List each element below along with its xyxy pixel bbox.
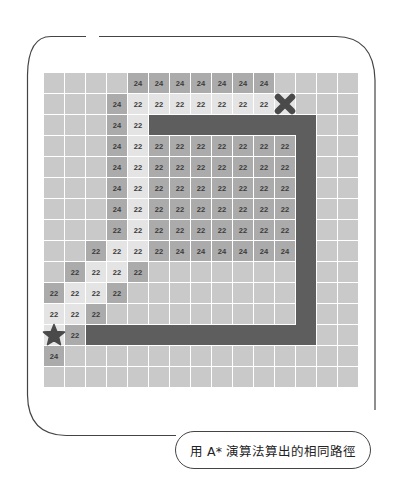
empty-cell (44, 115, 64, 135)
frontier-cell: 22 (275, 220, 295, 240)
empty-cell (338, 136, 358, 156)
empty-cell (128, 346, 148, 366)
x-icon (272, 91, 298, 117)
empty-cell (338, 241, 358, 261)
empty-cell (317, 241, 337, 261)
frontier-cell: 22 (212, 157, 232, 177)
frontier-cell: 22 (149, 241, 169, 261)
visited-cell: 22 (233, 94, 253, 114)
visited-cell: 22 (128, 220, 148, 240)
empty-cell (317, 199, 337, 219)
empty-cell (170, 262, 190, 282)
empty-cell (191, 304, 211, 324)
empty-cell (275, 73, 295, 93)
empty-cell (212, 346, 232, 366)
visited-cell: 22 (128, 199, 148, 219)
empty-cell (233, 283, 253, 303)
visited-cell: 22 (254, 94, 274, 114)
empty-cell (86, 115, 106, 135)
empty-cell (338, 157, 358, 177)
frontier-cell: 24 (107, 136, 127, 156)
empty-cell (317, 262, 337, 282)
empty-cell (317, 115, 337, 135)
empty-cell (65, 73, 85, 93)
empty-cell (107, 346, 127, 366)
frontier-cell: 22 (254, 157, 274, 177)
frontier-cell: 22 (149, 199, 169, 219)
star-icon (41, 322, 67, 348)
frontier-cell: 22 (275, 157, 295, 177)
empty-cell (275, 262, 295, 282)
empty-cell (65, 94, 85, 114)
empty-cell (338, 115, 358, 135)
empty-cell (317, 73, 337, 93)
empty-cell (44, 73, 64, 93)
frontier-cell: 24 (107, 178, 127, 198)
empty-cell (317, 178, 337, 198)
empty-cell (86, 73, 106, 93)
empty-cell (338, 73, 358, 93)
empty-cell (338, 346, 358, 366)
visited-cell: 22 (128, 157, 148, 177)
frontier-cell: 22 (275, 199, 295, 219)
visited-cell: 22 (65, 283, 85, 303)
empty-cell (44, 136, 64, 156)
empty-cell (254, 283, 274, 303)
empty-cell (44, 157, 64, 177)
frontier-cell: 22 (170, 136, 190, 156)
frontier-cell: 22 (65, 325, 85, 345)
empty-cell (338, 94, 358, 114)
empty-cell (86, 136, 106, 156)
empty-cell (65, 115, 85, 135)
frontier-cell: 22 (212, 136, 232, 156)
empty-cell (338, 199, 358, 219)
empty-cell (44, 262, 64, 282)
empty-cell (338, 220, 358, 240)
visited-cell: 22 (107, 241, 127, 261)
empty-cell (149, 346, 169, 366)
empty-cell (107, 304, 127, 324)
frontier-cell: 24 (275, 241, 295, 261)
visited-cell: 22 (149, 94, 169, 114)
empty-cell (65, 220, 85, 240)
frontier-cell: 22 (212, 178, 232, 198)
empty-cell (317, 94, 337, 114)
empty-cell (275, 304, 295, 324)
empty-cell (317, 367, 337, 387)
empty-cell (254, 262, 274, 282)
frontier-cell: 24 (212, 73, 232, 93)
frontier-cell: 22 (275, 178, 295, 198)
frontier-cell: 24 (212, 241, 232, 261)
empty-cell (65, 241, 85, 261)
frontier-cell: 24 (44, 346, 64, 366)
empty-cell (107, 367, 127, 387)
empty-cell (65, 199, 85, 219)
frontier-cell: 22 (149, 220, 169, 240)
frontier-cell: 24 (254, 241, 274, 261)
frontier-cell: 22 (149, 136, 169, 156)
empty-cell (149, 283, 169, 303)
empty-cell (254, 367, 274, 387)
empty-cell (275, 346, 295, 366)
frontier-cell: 24 (254, 73, 274, 93)
empty-cell (212, 262, 232, 282)
empty-cell (191, 262, 211, 282)
empty-cell (170, 346, 190, 366)
empty-cell (296, 94, 316, 114)
empty-cell (170, 283, 190, 303)
empty-cell (338, 178, 358, 198)
frontier-cell: 24 (107, 157, 127, 177)
visited-cell: 22 (191, 94, 211, 114)
empty-cell (233, 304, 253, 324)
frontier-cell: 22 (170, 157, 190, 177)
empty-cell (86, 199, 106, 219)
visited-cell: 22 (128, 115, 148, 135)
wall-segment (149, 115, 316, 135)
empty-cell (128, 367, 148, 387)
frontier-cell: 22 (170, 199, 190, 219)
visited-cell: 22 (86, 262, 106, 282)
empty-cell (44, 178, 64, 198)
frontier-cell: 22 (128, 262, 148, 282)
empty-cell (86, 220, 106, 240)
empty-cell (254, 304, 274, 324)
